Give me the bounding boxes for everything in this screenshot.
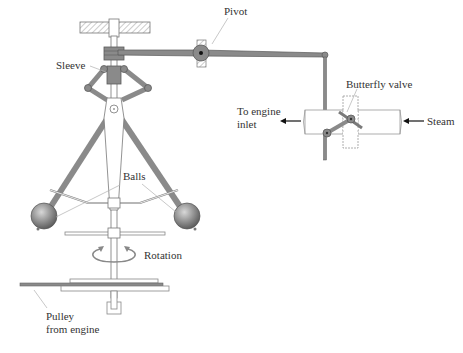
butterfly-valve-label: Butterfly valve: [346, 78, 412, 90]
lower-crossbar: [65, 228, 165, 238]
pulley-label-line2: from engine: [46, 323, 100, 335]
sleeve: [107, 66, 121, 84]
top-bearing-bracket: [80, 19, 150, 37]
flyball-governor-diagram: Pivot Sleeve Butterfly valve To engine i…: [0, 0, 463, 353]
steam-arrow: [403, 118, 424, 124]
rotation-label: Rotation: [144, 249, 182, 261]
to-engine-inlet-label-line1: To engine: [237, 105, 281, 117]
central-hub: [104, 98, 124, 210]
balls-label: Balls: [123, 170, 146, 182]
steam-label: Steam: [427, 115, 455, 127]
pivot-label: Pivot: [224, 5, 247, 17]
lever-arm: [118, 50, 325, 57]
sleeve-label: Sleeve: [56, 59, 85, 71]
pulley-label-line1: Pulley: [46, 310, 75, 322]
bottom-bearing: [107, 291, 121, 314]
to-engine-arrow: [280, 118, 301, 124]
valve-rod: [322, 52, 328, 160]
to-engine-inlet-label-line2: inlet: [237, 118, 257, 130]
pulley: [20, 279, 169, 291]
pivot: [193, 40, 209, 67]
